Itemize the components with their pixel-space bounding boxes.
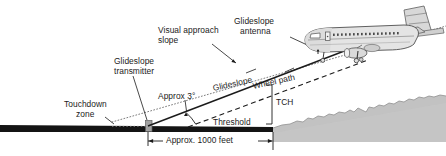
tch-bracket <box>266 85 272 124</box>
tch-label: TCH <box>276 98 293 108</box>
terrain-profile <box>273 95 446 142</box>
aircraft-illustration <box>305 6 444 63</box>
visual-approach-slope-label-line2: slope <box>158 36 178 46</box>
threshold-label: Threshold <box>213 118 251 128</box>
glideslope-transmitter-label-line2: transmitter <box>114 67 154 77</box>
touchdown-zone-label-line2: zone <box>76 110 94 120</box>
approx-distance-label: Approx. 1000 feet <box>166 136 233 146</box>
glideslope-antenna-label-line2: antenna <box>240 27 271 37</box>
ils-glideslope-diagram: Visual approach slope Glideslope antenna… <box>0 0 446 156</box>
diagram-canvas <box>0 0 446 156</box>
approx-angle-label: Approx 3° <box>158 92 195 102</box>
